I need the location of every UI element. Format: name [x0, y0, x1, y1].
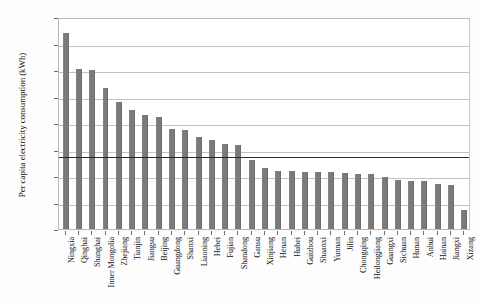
bar: [421, 181, 427, 229]
bar: [182, 130, 188, 229]
x-axis-tick-label: Xizang: [467, 237, 475, 260]
x-axis-tick-mark: [198, 231, 199, 235]
x-axis-tick-mark: [184, 231, 185, 235]
x-axis-tick-label: Yunnan: [334, 237, 342, 262]
x-axis-tick-mark: [384, 231, 385, 235]
x-axis-tick-mark: [65, 231, 66, 235]
bar: [448, 185, 454, 229]
chart-figure: Per capita electricity consumption (kWh)…: [0, 0, 479, 303]
bar: [63, 33, 69, 229]
x-axis-tick-label: Shanghai: [94, 237, 102, 267]
x-axis-tick-mark: [277, 231, 278, 235]
x-axis-tick-label: Tianjin: [134, 237, 142, 260]
x-axis-tick-label: Heilongjiang: [374, 237, 382, 279]
x-axis-tick-label: Shandong: [241, 237, 249, 269]
x-axis-tick-mark: [410, 231, 411, 235]
x-axis-tick-label: Hunan: [413, 237, 421, 259]
x-axis-tick-mark: [450, 231, 451, 235]
x-axis-tick-label: Zhejiang: [121, 237, 129, 266]
bar: [289, 171, 295, 229]
bar: [209, 140, 215, 229]
bar: [142, 115, 148, 229]
bar: [275, 171, 281, 229]
bar: [262, 168, 268, 229]
x-axis-tick-label: Sichuan: [400, 237, 408, 263]
x-axis-tick-mark: [224, 231, 225, 235]
x-axis-tick-label: Gansu: [254, 237, 262, 258]
bar: [196, 137, 202, 229]
x-axis-tick-mark: [171, 231, 172, 235]
x-axis-tick-mark: [211, 231, 212, 235]
x-axis-tick-mark: [370, 231, 371, 235]
x-axis-tick-label: Hebei: [214, 237, 222, 256]
x-axis-tick-label: Henan: [280, 237, 288, 258]
x-axis-tick-mark: [463, 231, 464, 235]
x-axis-tick-label: Inner Mongolia: [108, 237, 116, 287]
x-axis-tick-label: Shaanxi: [320, 237, 328, 263]
x-axis-tick-mark: [237, 231, 238, 235]
x-axis-tick-mark: [91, 231, 92, 235]
x-axis-tick-label: Jilin: [347, 237, 355, 251]
x-axis-tick-mark: [131, 231, 132, 235]
x-axis-tick-label: Liaoning: [201, 237, 209, 266]
bar: [76, 69, 82, 229]
x-axis-tick-mark: [251, 231, 252, 235]
bar: [169, 129, 175, 229]
x-axis-tick-label: Guizhou: [307, 237, 315, 265]
bar: [461, 210, 467, 229]
x-axis-tick-label: Beijing: [161, 237, 169, 261]
x-axis-tick-label: Jiangxi: [453, 237, 461, 260]
x-axis-tick-mark: [423, 231, 424, 235]
x-axis-tick-label: Hainan: [440, 237, 448, 260]
x-axis-tick-mark: [158, 231, 159, 235]
bar: [435, 184, 441, 229]
bar: [315, 172, 321, 230]
x-axis-tick-mark: [437, 231, 438, 235]
bar: [249, 160, 255, 229]
x-axis-tick-mark: [317, 231, 318, 235]
x-axis-tick-label: Qinghai: [81, 237, 89, 263]
x-axis-tick-label: Anhui: [427, 237, 435, 257]
x-axis-tick-mark: [397, 231, 398, 235]
x-axis-tick-mark: [291, 231, 292, 235]
x-axis-tick-mark: [144, 231, 145, 235]
x-axis-tick-mark: [105, 231, 106, 235]
y-axis-tick-mark: [54, 230, 58, 231]
bar: [116, 102, 122, 229]
bar: [328, 172, 334, 229]
bar-series: [59, 19, 469, 229]
bar: [342, 173, 348, 229]
x-axis-tick-label: Jiangsu: [148, 237, 156, 261]
bar: [129, 110, 135, 229]
x-axis-tick-label: Chongqing: [360, 237, 368, 273]
x-axis-tick-label: Guangdong: [174, 237, 182, 275]
x-axis-tick-mark: [304, 231, 305, 235]
reference-line-national-average: [59, 157, 469, 159]
x-axis-tick-label: Hubei: [294, 237, 302, 257]
x-axis-tick-label: Shanxi: [187, 237, 195, 259]
x-axis-tick-mark: [344, 231, 345, 235]
bar: [408, 181, 414, 229]
x-axis-tick-label: Ningxia: [68, 237, 76, 263]
bar: [395, 180, 401, 229]
x-axis-tick-mark: [264, 231, 265, 235]
y-axis-title: Per capita electricity consumption (kWh): [17, 25, 27, 225]
bar: [89, 70, 95, 229]
x-axis-tick-label: Xinjiang: [267, 237, 275, 265]
x-axis-tick-label: Guangxi: [387, 237, 395, 265]
plot-area: [58, 18, 470, 230]
bar: [355, 174, 361, 229]
bar: [382, 177, 388, 229]
x-axis-tick-label: Fujian: [227, 237, 235, 258]
bar: [302, 172, 308, 230]
bar: [156, 117, 162, 229]
x-axis-tick-mark: [330, 231, 331, 235]
bar: [368, 174, 374, 229]
x-axis-tick-mark: [118, 231, 119, 235]
x-axis-tick-mark: [78, 231, 79, 235]
x-axis-tick-mark: [357, 231, 358, 235]
